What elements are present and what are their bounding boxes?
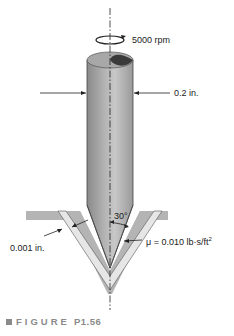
figure-caption: FIGUREP1.56: [6, 316, 101, 327]
caption-number: P1.56: [74, 316, 101, 327]
rotation-arrow-icon: [96, 35, 126, 44]
viscosity-exponent: 2: [208, 236, 211, 242]
viscometer-diagram: [0, 0, 234, 336]
viscosity-text: μ = 0.010 lb·s/ft: [146, 237, 208, 247]
caption-square-icon: [6, 319, 12, 325]
diameter-label: 0.2 in.: [174, 88, 199, 98]
speed-label: 5000 rpm: [132, 35, 170, 45]
figure: 5000 rpm 0.2 in. 30° 0.001 in. μ = 0.010…: [0, 0, 234, 336]
angle-label: 30°: [114, 211, 128, 221]
viscosity-label: μ = 0.010 lb·s/ft2: [146, 236, 212, 247]
gap-label: 0.001 in.: [10, 243, 45, 253]
caption-word: FIGURE: [16, 316, 70, 327]
